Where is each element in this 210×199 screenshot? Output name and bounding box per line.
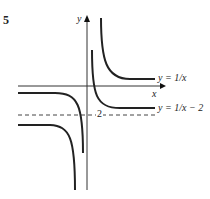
x-axis-arrow-icon (160, 83, 166, 89)
asymptote-label: 2 (96, 108, 103, 119)
y-axis-arrow-icon (84, 15, 90, 22)
x-axis-label: x (152, 88, 156, 99)
curve2-label: y = 1/x − 2 (158, 102, 203, 113)
curve-2-lower (18, 125, 75, 190)
curve1-label: y = 1/x (158, 72, 186, 83)
curve-1-lower (18, 93, 83, 153)
curve-1-upper (101, 18, 155, 79)
graph (0, 0, 210, 199)
y-axis-label: y (77, 13, 81, 24)
